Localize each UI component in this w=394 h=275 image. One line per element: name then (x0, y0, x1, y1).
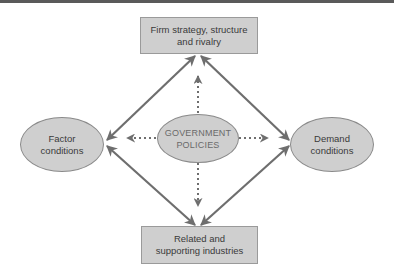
node-related-industries-line1: Related and (156, 233, 244, 245)
node-government-policies-line2: POLICIES (165, 139, 232, 151)
node-government-policies-line1: GOVERNMENT (165, 127, 232, 139)
node-factor-conditions-line2: conditions (41, 145, 84, 157)
node-related-industries-line2: supporting industries (156, 245, 244, 257)
node-related-industries: Related and supporting industries (141, 226, 258, 264)
node-demand-conditions-line2: conditions (311, 145, 354, 157)
node-firm-strategy: Firm strategy, structure and rivalry (140, 17, 258, 54)
node-demand-conditions-line1: Demand (311, 133, 354, 145)
node-demand-conditions: Demand conditions (290, 117, 374, 172)
node-factor-conditions: Factor conditions (20, 117, 104, 172)
node-firm-strategy-line2: and rivalry (151, 36, 248, 48)
node-factor-conditions-line1: Factor (41, 133, 84, 145)
node-government-policies: GOVERNMENT POLICIES (157, 114, 239, 163)
node-firm-strategy-line1: Firm strategy, structure (151, 24, 248, 36)
